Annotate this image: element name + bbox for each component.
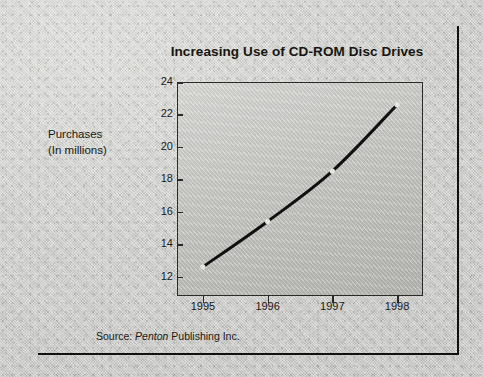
y-axis-tick-mark — [177, 244, 183, 246]
source-publisher-name: Penton — [135, 330, 168, 342]
y-axis-tick-mark — [177, 179, 183, 181]
y-axis-tick-label: 12 — [139, 270, 173, 282]
y-axis-tick-mark — [177, 82, 183, 84]
data-line-chart — [177, 82, 423, 296]
source-prefix: Source: — [96, 330, 132, 342]
data-point-marker — [200, 264, 205, 269]
data-point-marker — [265, 219, 270, 224]
x-axis-tick-marks — [177, 296, 423, 303]
y-axis-tick-labels: 24222018161412 — [139, 82, 173, 296]
y-axis-tick-label: 24 — [139, 75, 173, 87]
data-point-marker — [395, 102, 400, 107]
x-axis-tick-mark — [268, 296, 270, 303]
data-series-line — [203, 105, 397, 267]
y-axis-tick-mark — [177, 212, 183, 214]
x-axis-tick-mark — [397, 296, 399, 303]
border-rule-right — [457, 26, 459, 355]
y-axis-tick-mark — [177, 277, 183, 279]
chart-title: Increasing Use of CD-ROM Disc Drives — [152, 44, 442, 59]
source-note: Source: Penton Publishing Inc. — [96, 330, 240, 342]
y-axis-tick-label: 20 — [139, 140, 173, 152]
x-axis-tick-mark — [203, 296, 205, 303]
y-axis-tick-mark — [177, 147, 183, 149]
source-suffix: Publishing Inc. — [171, 330, 239, 342]
y-axis-tick-label: 14 — [139, 237, 173, 249]
x-axis-tick-mark — [332, 296, 334, 303]
border-rule-bottom — [38, 353, 459, 355]
y-axis-tick-marks — [177, 82, 183, 296]
data-point-marker — [330, 169, 335, 174]
y-axis-tick-mark — [177, 114, 183, 116]
y-axis-tick-label: 22 — [139, 107, 173, 119]
y-axis-tick-label: 18 — [139, 172, 173, 184]
y-axis-tick-label: 16 — [139, 205, 173, 217]
plot-area — [177, 82, 423, 296]
